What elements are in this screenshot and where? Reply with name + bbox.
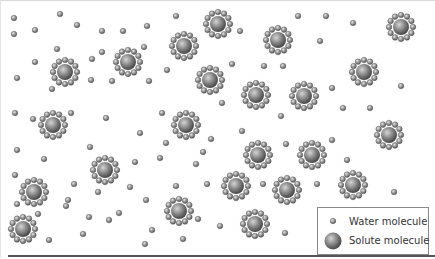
- shell-water-molecule: [189, 112, 195, 118]
- shell-water-molecule: [113, 173, 119, 179]
- shell-water-molecule: [42, 183, 48, 189]
- shell-water-molecule: [175, 54, 181, 60]
- water-molecule: [11, 31, 17, 37]
- shell-water-molecule: [226, 15, 232, 21]
- water-molecule: [163, 140, 169, 146]
- shell-water-molecule: [303, 163, 309, 169]
- shell-water-molecule: [409, 30, 415, 36]
- shell-water-molecule: [31, 220, 37, 226]
- water-molecule: [80, 231, 86, 237]
- solvated-solute: [272, 175, 302, 205]
- shell-water-molecule: [171, 122, 177, 128]
- shell-water-molecule: [187, 202, 193, 208]
- solute-molecule: [57, 64, 73, 80]
- solvated-solute: [171, 110, 201, 140]
- shell-water-molecule: [284, 175, 290, 181]
- shell-water-molecule: [181, 31, 187, 37]
- shell-water-molecule: [131, 70, 137, 76]
- shell-water-molecule: [274, 193, 280, 199]
- shell-water-molecule: [176, 196, 182, 202]
- shell-water-molecule: [392, 14, 398, 20]
- solute-molecule: [247, 216, 263, 232]
- shell-water-molecule: [290, 198, 296, 204]
- shell-water-molecule: [252, 233, 258, 239]
- shell-water-molecule: [299, 146, 305, 152]
- solute-molecule: [250, 147, 266, 163]
- shell-water-molecule: [187, 214, 193, 220]
- water-molecule: [350, 20, 356, 26]
- shell-water-molecule: [31, 232, 37, 238]
- shell-water-molecule: [61, 128, 67, 134]
- shell-water-molecule: [303, 142, 309, 148]
- shell-water-molecule: [264, 221, 270, 227]
- shell-water-molecule: [344, 193, 350, 199]
- shell-water-molecule: [290, 177, 296, 183]
- shell-water-molecule: [73, 75, 79, 81]
- water-molecule: [35, 211, 41, 217]
- shell-water-molecule: [321, 152, 327, 158]
- shell-water-molecule: [315, 163, 321, 169]
- water-molecule: [340, 105, 346, 111]
- shell-water-molecule: [355, 59, 361, 65]
- shell-water-molecule: [259, 103, 265, 109]
- shell-water-molecule: [388, 18, 394, 24]
- shell-water-molecule: [312, 99, 318, 105]
- shell-water-molecule: [183, 134, 189, 140]
- shell-water-molecule: [243, 98, 249, 104]
- shell-water-molecule: [131, 49, 137, 55]
- water-molecule: [127, 184, 133, 190]
- water-molecule: [146, 78, 152, 84]
- solute-molecule: [176, 38, 192, 54]
- shell-water-molecule: [31, 177, 37, 183]
- shell-water-molecule: [175, 33, 181, 39]
- solvated-solute: [241, 80, 271, 110]
- solute-molecule: [381, 127, 397, 143]
- legend-item-solute: Solute molecule: [318, 231, 428, 249]
- solvated-solute: [19, 177, 49, 207]
- shell-water-molecule: [376, 138, 382, 144]
- shell-water-molecule: [170, 198, 176, 204]
- water-molecule: [87, 144, 93, 150]
- water-molecule: [74, 22, 80, 28]
- shell-water-molecule: [340, 176, 346, 182]
- water-molecule: [344, 157, 350, 163]
- shell-water-molecule: [410, 24, 416, 30]
- shell-water-molecule: [281, 48, 287, 54]
- shell-water-molecule: [221, 11, 227, 17]
- shell-water-molecule: [397, 138, 403, 144]
- shell-water-molecule: [265, 31, 271, 37]
- water-molecule: [14, 147, 20, 153]
- shell-water-molecule: [275, 25, 281, 31]
- shell-water-molecule: [367, 80, 373, 86]
- shell-water-molecule: [244, 189, 250, 195]
- shell-water-molecule: [197, 71, 203, 77]
- water-molecule: [323, 13, 329, 19]
- shell-water-molecule: [287, 37, 293, 43]
- shell-water-molecule: [37, 179, 43, 185]
- shell-water-molecule: [223, 177, 229, 183]
- shell-water-molecule: [31, 201, 37, 207]
- shell-water-molecule: [266, 158, 272, 164]
- water-molecule: [41, 156, 47, 162]
- shell-water-molecule: [213, 88, 219, 94]
- shell-water-molecule: [233, 171, 239, 177]
- shell-water-molecule: [269, 27, 275, 33]
- shell-water-molecule: [10, 220, 16, 226]
- shell-water-molecule: [189, 133, 195, 139]
- shell-water-molecule: [351, 63, 357, 69]
- water-molecule: [32, 27, 38, 33]
- solvated-solute: [221, 171, 251, 201]
- solvated-solute: [338, 170, 368, 200]
- water-molecule: [149, 227, 155, 233]
- shell-water-molecule: [183, 110, 189, 116]
- shell-water-molecule: [223, 189, 229, 195]
- shell-water-molecule: [397, 126, 403, 132]
- shell-water-molecule: [338, 182, 344, 188]
- shell-water-molecule: [372, 63, 378, 69]
- water-molecule: [208, 136, 214, 142]
- solvated-solute: [386, 12, 416, 42]
- shell-water-molecule: [182, 219, 188, 225]
- shell-water-molecule: [119, 49, 125, 55]
- water-molecule: [237, 28, 243, 34]
- water-molecule: [329, 137, 335, 143]
